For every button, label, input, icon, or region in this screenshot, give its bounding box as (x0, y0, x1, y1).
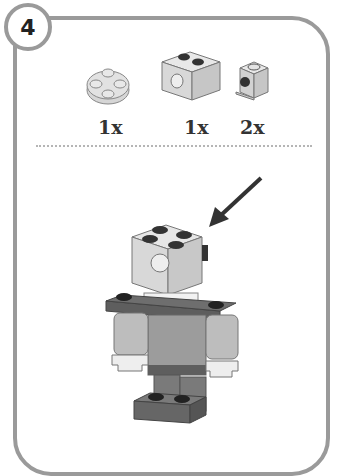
part-quantity: 2x (240, 116, 265, 138)
part-quantity: 1x (184, 116, 209, 138)
side-stud-brick-icon (234, 58, 272, 102)
step-number: 4 (20, 15, 35, 40)
step-number-badge: 4 (4, 3, 52, 51)
dotted-divider (36, 145, 312, 147)
robot-feet-illustration (130, 385, 210, 430)
round-plate-icon (84, 60, 132, 110)
technic-brick-icon (160, 48, 222, 104)
part-quantity: 1x (98, 116, 123, 138)
